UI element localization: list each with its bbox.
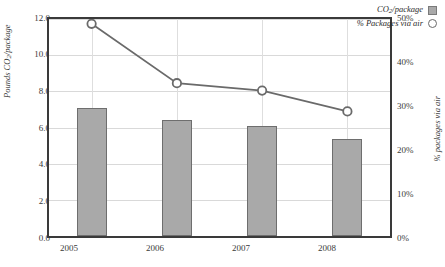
legend-item-packages-via-air: % Packages via air bbox=[357, 17, 437, 30]
legend-item-co2: CO2/package bbox=[357, 4, 437, 17]
plot-inner bbox=[49, 19, 390, 236]
line-marker-2008 bbox=[343, 107, 351, 115]
secondary-y-axis-title-text: % packages via air bbox=[432, 96, 442, 161]
legend-label-co2-post: /package bbox=[392, 4, 423, 14]
secondary-y-tick-label: 0% bbox=[397, 234, 409, 243]
y-axis-title: Pounds CO2/package bbox=[2, 70, 13, 84]
legend-circle-marker-icon bbox=[428, 19, 437, 28]
y-axis-title-subscript: 2 bbox=[5, 55, 13, 59]
chart-legend: CO2/package % Packages via air bbox=[357, 4, 437, 30]
line-series-packages-via-air bbox=[49, 19, 390, 236]
legend-square-swatch-icon bbox=[428, 6, 437, 15]
line-marker-2005 bbox=[87, 20, 95, 28]
legend-label-packages-via-air: % Packages via air bbox=[357, 17, 423, 30]
secondary-y-axis-title: % packages via air bbox=[432, 31, 442, 96]
line-marker-2007 bbox=[258, 86, 266, 94]
legend-label-co2-pre: CO bbox=[377, 4, 389, 14]
secondary-y-tick-label: 30% bbox=[397, 102, 414, 111]
x-tick-label: 2008 bbox=[302, 243, 352, 253]
x-tick-label: 2007 bbox=[216, 243, 266, 253]
legend-label-co2: CO2/package bbox=[377, 3, 423, 18]
y-axis-title-post: /package bbox=[2, 24, 12, 55]
line-marker-2006 bbox=[173, 79, 181, 87]
chart-container: Pounds CO2/package % packages via air 0.… bbox=[0, 0, 445, 267]
secondary-y-tick-label: 10% bbox=[397, 190, 414, 199]
line-path bbox=[92, 24, 348, 112]
secondary-y-tick-label: 20% bbox=[397, 146, 414, 155]
plot-area bbox=[47, 17, 392, 238]
x-tick-label: 2005 bbox=[44, 243, 94, 253]
y-axis-title-pre: Pounds CO bbox=[2, 59, 12, 98]
secondary-y-tick-label: 40% bbox=[397, 58, 414, 67]
x-tick-label: 2006 bbox=[130, 243, 180, 253]
